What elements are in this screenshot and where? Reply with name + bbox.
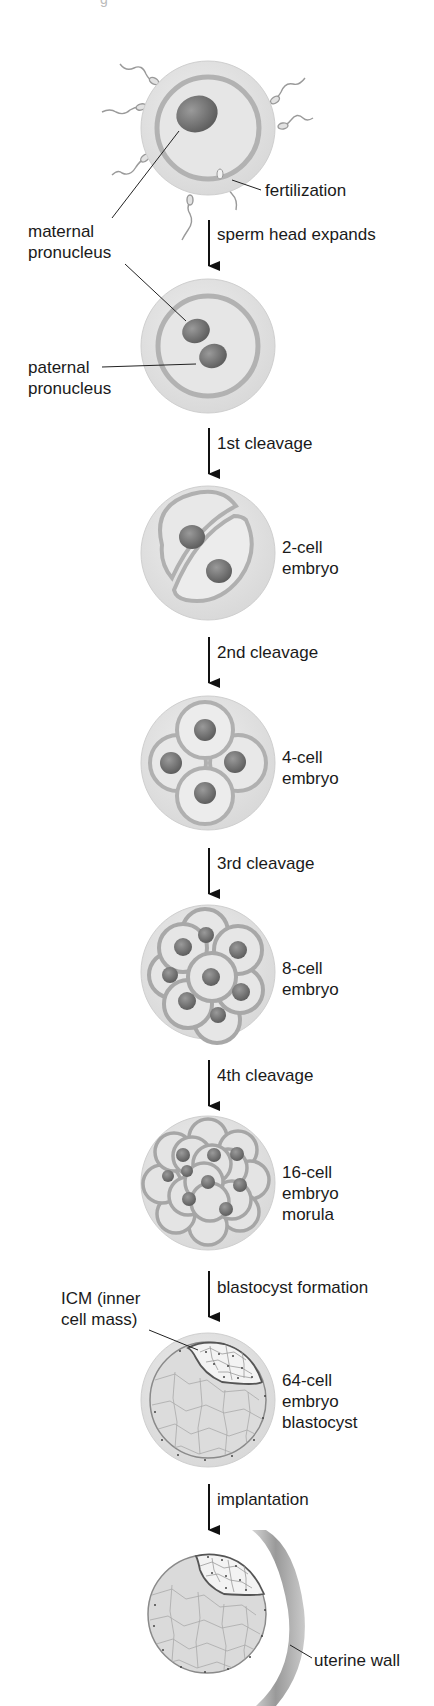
stage-label-16-cell: 16-cell xyxy=(282,1163,332,1182)
arrow-4th-cleavage: 4th cleavage xyxy=(209,1060,313,1106)
stage-label-embryo: embryo xyxy=(282,559,339,578)
arrow-1st-cleavage: 1st cleavage xyxy=(209,428,312,474)
stage-64-cell-blastocyst xyxy=(141,1330,275,1467)
arrow-2nd-cleavage: 2nd cleavage xyxy=(209,637,318,683)
icm-label-line2: cell mass) xyxy=(61,1310,138,1329)
maternal-pronucleus-label-line1: maternal xyxy=(28,222,94,241)
nucleus xyxy=(206,559,232,583)
arrow-sperm-head-expands: sperm head expands xyxy=(209,220,376,266)
stage-4-cell xyxy=(141,696,275,830)
arrow-blastocyst-formation: blastocyst formation xyxy=(209,1271,368,1317)
icm-label-line1: ICM (inner xyxy=(61,1289,141,1308)
stage-label-embryo: embryo xyxy=(282,980,339,999)
stage-label-blastocyst: blastocyst xyxy=(282,1413,358,1432)
arrow-3rd-cleavage: 3rd cleavage xyxy=(209,848,314,894)
stage-label-4-cell: 4-cell xyxy=(282,748,323,767)
arrow-label: implantation xyxy=(217,1490,309,1509)
stage-2-cell xyxy=(141,486,275,620)
arrow-label: 1st cleavage xyxy=(217,434,312,453)
nucleus xyxy=(179,525,205,549)
stage-label-morula: morula xyxy=(282,1205,335,1224)
paternal-pronucleus-label-line1: paternal xyxy=(28,358,89,377)
stage-label-embryo: embryo xyxy=(282,1392,339,1411)
embryo-development-diagram: g fertilization maternal pronucleus xyxy=(0,0,434,1706)
arrow-label: 2nd cleavage xyxy=(217,643,318,662)
arrow-label: 3rd cleavage xyxy=(217,854,314,873)
stage-16-cell-morula xyxy=(141,1116,275,1250)
stage-label-embryo: embryo xyxy=(282,769,339,788)
stage-zygote xyxy=(102,264,275,413)
maternal-pronucleus-label-line2: pronucleus xyxy=(28,243,111,262)
stage-label-64-cell: 64-cell xyxy=(282,1371,332,1390)
uterine-wall-label: uterine wall xyxy=(314,1651,400,1670)
cropped-title-fragment: g xyxy=(100,0,108,7)
arrow-implantation: implantation xyxy=(209,1484,309,1530)
fertilization-label: fertilization xyxy=(265,181,346,200)
stage-oocyte: fertilization xyxy=(102,61,346,240)
stage-8-cell xyxy=(141,905,275,1043)
arrow-label: blastocyst formation xyxy=(217,1278,368,1297)
arrow-label: 4th cleavage xyxy=(217,1066,313,1085)
arrow-label: sperm head expands xyxy=(217,225,376,244)
stage-implantation: uterine wall xyxy=(148,1530,400,1706)
stage-label-8-cell: 8-cell xyxy=(282,959,323,978)
paternal-pronucleus-label-line2: pronucleus xyxy=(28,379,111,398)
stage-label-2-cell: 2-cell xyxy=(282,538,323,557)
entering-sperm-head xyxy=(217,169,223,179)
stage-label-embryo: embryo xyxy=(282,1184,339,1203)
